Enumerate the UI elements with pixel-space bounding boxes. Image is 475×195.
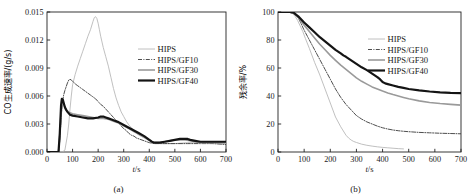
figure-container: 01002003004005006007000.0000.0030.0060.0…: [0, 0, 475, 195]
x-tick-label: 300: [350, 155, 362, 164]
y-axis-label: CO生成速率/(g/s): [3, 50, 13, 115]
x-tick-label: 100: [66, 155, 78, 164]
y-tick-label: 60: [266, 64, 274, 73]
y-tick-label: 80: [266, 36, 274, 45]
x-tick-label: 700: [220, 155, 232, 164]
chart-b-svg: 0100200300400500600700020406080100HIPSHI…: [237, 0, 475, 195]
x-tick-label: 300: [118, 155, 130, 164]
y-tick-label: 0.000: [25, 148, 43, 157]
x-tick-label: 600: [429, 155, 441, 164]
x-axis-label: t/s: [132, 164, 140, 174]
legend-label-hips-gf10: HIPS/GF10: [158, 55, 199, 65]
panel-a-caption: (a): [0, 184, 237, 194]
y-tick-label: 40: [266, 92, 274, 101]
x-axis-label: t/s: [365, 164, 373, 174]
x-tick-label: 400: [143, 155, 155, 164]
legend-label-hips: HIPS: [158, 44, 177, 54]
chart-a-svg: 01002003004005006007000.0000.0030.0060.0…: [0, 0, 237, 195]
legend-label-hips-gf40: HIPS/GF40: [388, 66, 429, 76]
y-tick-label: 0.009: [25, 64, 43, 73]
x-tick-label: 400: [376, 155, 388, 164]
panel-b: 0100200300400500600700020406080100HIPSHI…: [237, 0, 474, 195]
legend-label-hips-gf30: HIPS/GF30: [158, 65, 199, 75]
y-tick-label: 0.003: [25, 120, 43, 129]
y-axis-label: 残余率/%: [238, 64, 248, 99]
legend-label-hips-gf10: HIPS/GF10: [388, 45, 429, 55]
x-tick-label: 200: [92, 155, 104, 164]
x-tick-label: 200: [324, 155, 336, 164]
x-tick-label: 500: [169, 155, 181, 164]
y-tick-label: 0.012: [25, 36, 43, 45]
x-tick-label: 100: [298, 155, 310, 164]
panel-b-caption: (b): [237, 184, 474, 194]
y-tick-label: 0.015: [25, 8, 43, 17]
y-tick-label: 20: [266, 120, 274, 129]
panel-a: 01002003004005006007000.0000.0030.0060.0…: [0, 0, 237, 195]
x-tick-label: 0: [276, 155, 280, 164]
x-tick-label: 700: [455, 155, 467, 164]
x-tick-label: 500: [403, 155, 415, 164]
legend-label-hips-gf30: HIPS/GF30: [388, 55, 429, 65]
legend-label-hips-gf40: HIPS/GF40: [158, 76, 199, 86]
y-tick-label: 0.006: [25, 92, 43, 101]
x-tick-label: 600: [194, 155, 206, 164]
legend-label-hips: HIPS: [388, 34, 407, 44]
x-tick-label: 0: [45, 155, 49, 164]
y-tick-label: 100: [262, 8, 274, 17]
y-tick-label: 0: [270, 148, 274, 157]
